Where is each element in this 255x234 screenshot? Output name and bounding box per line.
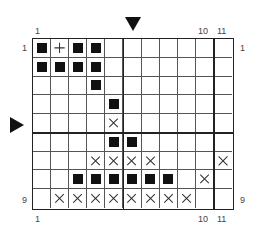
chart-cell bbox=[69, 95, 87, 114]
chart-cell bbox=[33, 133, 51, 152]
chart-cell bbox=[142, 77, 160, 96]
filled-square-icon bbox=[55, 62, 65, 72]
filled-square-icon bbox=[163, 174, 173, 184]
chart-cell bbox=[196, 39, 214, 58]
chart-cell bbox=[160, 39, 178, 58]
chart-cell bbox=[87, 95, 105, 114]
cross-icon bbox=[87, 189, 104, 208]
chart-cell bbox=[160, 95, 178, 114]
cross-icon bbox=[123, 152, 140, 170]
chart-cell bbox=[105, 114, 123, 133]
cross-icon bbox=[142, 189, 159, 208]
chart-cell bbox=[178, 39, 196, 58]
chart-cell bbox=[160, 133, 178, 152]
chart-cell bbox=[33, 77, 51, 96]
row-marker-arrow-icon bbox=[10, 117, 24, 133]
chart-cell bbox=[69, 189, 87, 208]
cross-icon bbox=[196, 170, 213, 188]
chart-cell bbox=[69, 152, 87, 171]
chart-cell bbox=[87, 39, 105, 58]
cross-icon bbox=[87, 152, 104, 170]
chart-cell bbox=[142, 133, 160, 152]
chart-cell bbox=[214, 170, 232, 189]
chart-cell bbox=[87, 189, 105, 208]
thick-vertical-divider bbox=[123, 39, 125, 209]
chart-cell bbox=[214, 95, 232, 114]
filled-square-icon bbox=[91, 62, 101, 72]
chart-cell bbox=[178, 133, 196, 152]
chart-cell bbox=[105, 95, 123, 114]
chart-cell bbox=[33, 152, 51, 171]
chart-cell bbox=[160, 77, 178, 96]
chart-cell bbox=[214, 189, 232, 208]
chart-cell bbox=[69, 39, 87, 58]
chart-cell bbox=[87, 114, 105, 133]
chart-cell bbox=[105, 133, 123, 152]
chart-cell bbox=[51, 77, 69, 96]
filled-square-icon bbox=[91, 174, 101, 184]
cross-icon bbox=[105, 152, 122, 170]
cross-icon bbox=[105, 189, 122, 208]
chart-cell bbox=[196, 58, 214, 77]
chart-cell bbox=[160, 170, 178, 189]
chart-cell bbox=[196, 95, 214, 114]
plus-icon bbox=[51, 39, 68, 57]
chart-cell bbox=[123, 152, 141, 171]
chart-cell bbox=[69, 58, 87, 77]
cross-icon bbox=[160, 189, 177, 208]
top-col-1-label: 1 bbox=[35, 26, 40, 36]
chart-cell bbox=[33, 58, 51, 77]
filled-square-icon bbox=[127, 137, 137, 147]
chart-cell bbox=[87, 77, 105, 96]
filled-square-icon bbox=[109, 137, 119, 147]
left-row-9-label: 9 bbox=[22, 195, 27, 205]
filled-square-icon bbox=[127, 174, 137, 184]
chart-cell bbox=[214, 77, 232, 96]
cross-icon bbox=[69, 189, 86, 208]
chart-cell bbox=[51, 189, 69, 208]
filled-square-icon bbox=[73, 62, 83, 72]
chart-cell bbox=[178, 114, 196, 133]
chart-cell bbox=[214, 58, 232, 77]
chart-cell bbox=[123, 170, 141, 189]
chart-cell bbox=[105, 77, 123, 96]
chart-cell bbox=[214, 152, 232, 171]
filled-square-icon bbox=[37, 43, 47, 53]
chart-cell bbox=[69, 77, 87, 96]
chart-cell bbox=[51, 152, 69, 171]
cross-icon bbox=[178, 189, 195, 208]
thick-horizontal-divider bbox=[33, 132, 233, 134]
chart-cell bbox=[178, 170, 196, 189]
chart-cell bbox=[87, 133, 105, 152]
chart-cell bbox=[214, 39, 232, 58]
chart-cell bbox=[69, 170, 87, 189]
chart-cell bbox=[69, 114, 87, 133]
cross-icon bbox=[214, 152, 232, 170]
chart-cell bbox=[123, 114, 141, 133]
chart-cell bbox=[123, 95, 141, 114]
chart-cell bbox=[196, 114, 214, 133]
chart-cell bbox=[178, 77, 196, 96]
chart-cell bbox=[87, 152, 105, 171]
right-row-1-label: 1 bbox=[240, 43, 245, 53]
column-marker-arrow-icon bbox=[125, 17, 141, 31]
top-col-11-label: 11 bbox=[217, 26, 226, 36]
chart-cell bbox=[51, 58, 69, 77]
chart-cell bbox=[105, 152, 123, 171]
chart-cell bbox=[123, 77, 141, 96]
thick-vertical-divider bbox=[213, 39, 215, 209]
chart-cell bbox=[33, 189, 51, 208]
filled-square-icon bbox=[37, 62, 47, 72]
chart-cell bbox=[196, 170, 214, 189]
chart-cell bbox=[142, 189, 160, 208]
left-row-1-label: 1 bbox=[22, 43, 27, 53]
filled-square-icon bbox=[73, 174, 83, 184]
chart-cell bbox=[105, 58, 123, 77]
chart-cell bbox=[160, 58, 178, 77]
chart-cell bbox=[178, 58, 196, 77]
chart-cell bbox=[196, 77, 214, 96]
chart-cell bbox=[123, 58, 141, 77]
chart-cell bbox=[105, 39, 123, 58]
filled-square-icon bbox=[73, 43, 83, 53]
filled-square-icon bbox=[91, 80, 101, 90]
